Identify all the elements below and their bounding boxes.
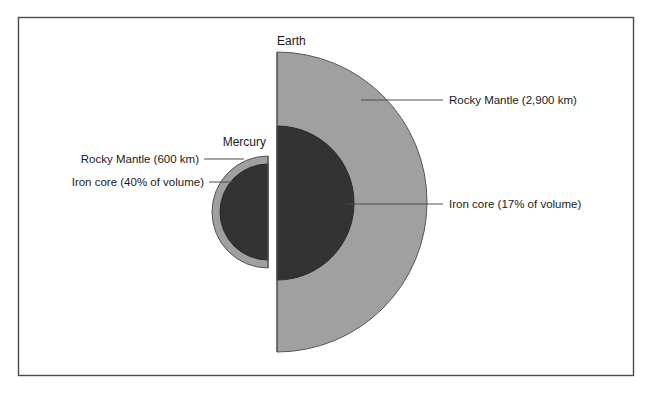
earth-core-label: Iron core (17% of volume) (449, 198, 581, 210)
planet-interiors-diagram: Earth Rocky Mantle (2,900 km) Iron core … (0, 0, 650, 394)
earth-mantle-label: Rocky Mantle (2,900 km) (449, 94, 577, 106)
mercury-mantle-label: Rocky Mantle (600 km) (81, 153, 199, 165)
mercury-title: Mercury (223, 135, 266, 149)
earth-group: Earth Rocky Mantle (2,900 km) Iron core … (277, 34, 581, 352)
earth-title: Earth (277, 34, 306, 48)
mercury-core-label: Iron core (40% of volume) (72, 176, 204, 188)
mercury-group: Mercury Rocky Mantle (600 km) Iron core … (72, 135, 268, 268)
